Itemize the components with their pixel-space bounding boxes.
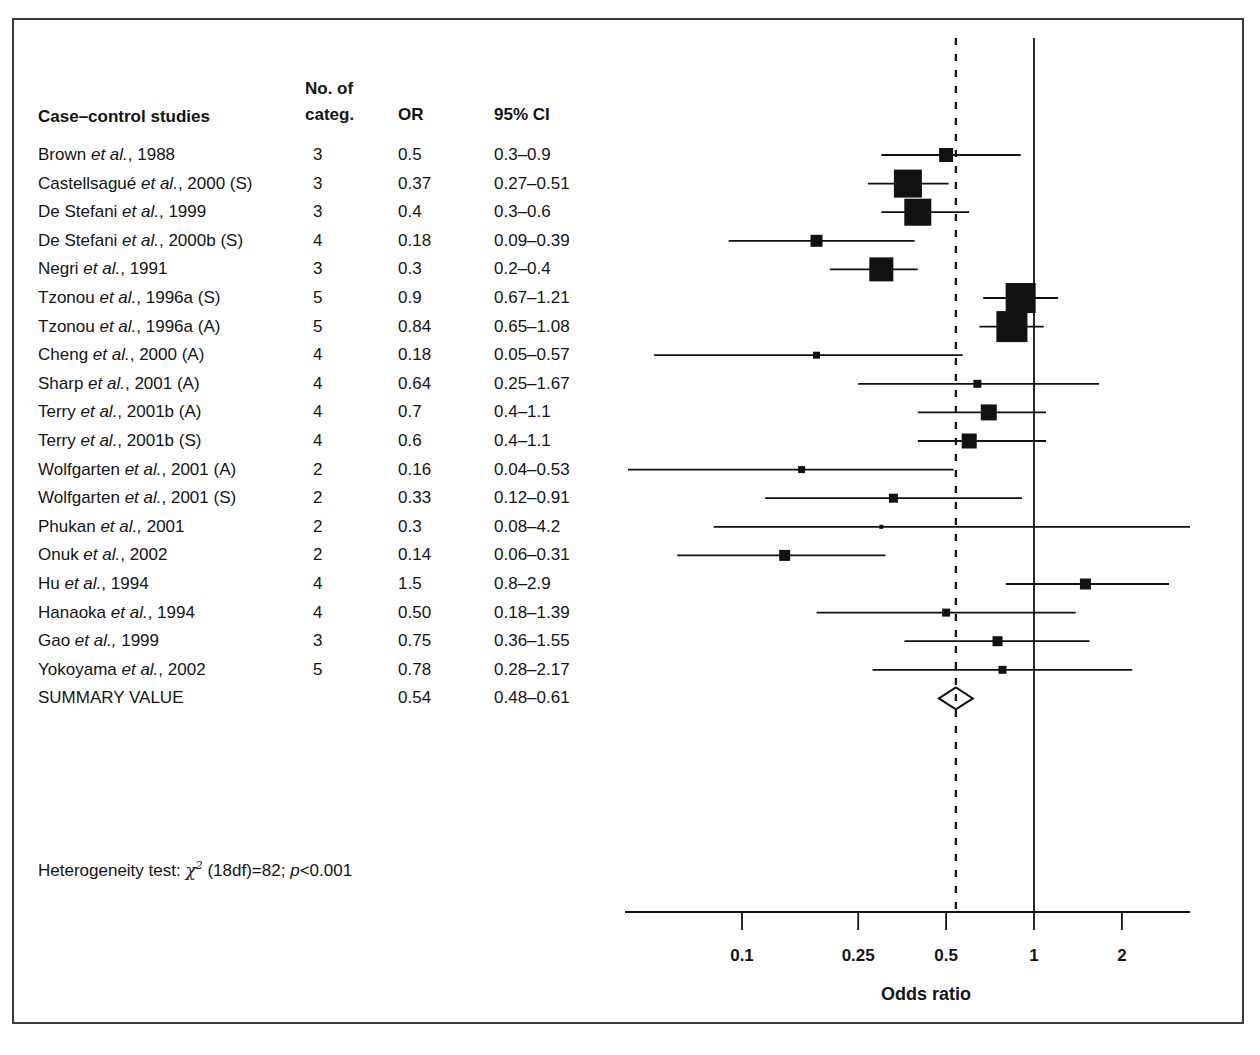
effect-size-box — [869, 257, 893, 281]
effect-size-box — [998, 666, 1006, 674]
effect-size-box — [811, 235, 823, 247]
axis-tick-label: 2 — [1096, 947, 1148, 964]
figure-page: Case–control studies No. of categ. OR 95… — [0, 0, 1260, 1055]
effect-size-box — [779, 550, 790, 561]
effect-size-box — [981, 404, 997, 420]
axis-tick-label: 0.25 — [832, 947, 884, 964]
axis-title: Odds ratio — [881, 985, 971, 1003]
effect-size-box — [904, 199, 931, 226]
axis-tick-label: 0.5 — [920, 947, 972, 964]
effect-size-box — [962, 434, 977, 449]
effect-size-box — [993, 636, 1003, 646]
effect-size-box — [798, 466, 805, 473]
forest-plot-canvas — [0, 0, 1260, 1055]
effect-size-box — [1006, 283, 1036, 313]
axis-tick-label: 0.1 — [716, 947, 768, 964]
effect-size-box — [889, 494, 898, 503]
effect-size-box — [879, 525, 883, 529]
effect-size-box — [973, 380, 981, 388]
effect-size-box — [894, 170, 922, 198]
effect-size-box — [1080, 579, 1091, 590]
effect-size-box — [939, 148, 953, 162]
axis-tick-label: 1 — [1008, 947, 1060, 964]
effect-size-box — [813, 352, 820, 359]
effect-size-box — [996, 311, 1027, 342]
effect-size-box — [942, 609, 950, 617]
